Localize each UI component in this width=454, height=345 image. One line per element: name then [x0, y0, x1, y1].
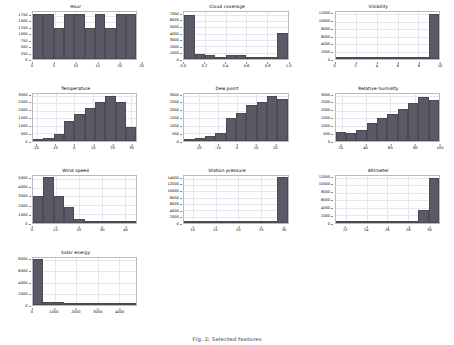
subplot-wind-speed: Wind speed010002000300040005000010203040: [0, 164, 151, 246]
histogram-bar: [64, 121, 74, 141]
histogram-bar: [226, 55, 236, 59]
y-axis-ticks: 020004000600080001000012000: [303, 175, 334, 224]
histogram-bar: [267, 96, 277, 141]
histogram-bar: [257, 102, 267, 141]
histogram-bar: [43, 302, 53, 305]
subplot-visibility: Visibility020004000600080001000012000024…: [303, 0, 454, 82]
histogram-bar: [74, 114, 84, 141]
histogram-bar: [85, 108, 95, 141]
subplot-solar-energy: Solar energy0200040006000800001000200030…: [0, 246, 151, 328]
y-axis-ticks: 01000200030004000500060007000: [151, 11, 182, 60]
x-tick-label: 2000: [71, 310, 80, 314]
histogram-bars: [184, 12, 287, 59]
plot-area: [183, 11, 288, 60]
y-axis-ticks: 020004000600080001000012000: [303, 11, 334, 60]
figure-subplot-grid: Hour025050075010001250150017500510152025…: [0, 0, 454, 330]
histogram-bar: [95, 221, 105, 223]
plot-panel: Temperature050010001500200025003000-20-1…: [0, 82, 151, 164]
histogram-bar: [367, 221, 377, 223]
histogram-bar: [336, 57, 346, 59]
plot-title: Altimeter: [303, 168, 454, 174]
x-tick-label: 0.6: [244, 64, 250, 68]
x-tick-label: 10: [91, 146, 96, 150]
y-tick-label: 0: [177, 222, 179, 226]
histogram-bar: [116, 14, 126, 59]
x-tick-label: 10: [254, 146, 259, 150]
x-tick-label: 100: [437, 146, 444, 150]
x-tick-label: 20: [110, 146, 115, 150]
x-tick-label: 15: [213, 228, 218, 232]
y-tick-label: 1500: [170, 116, 179, 120]
histogram-bar: [64, 207, 74, 223]
y-tick-label: 8000: [321, 190, 330, 194]
plot-panel: Altimeter0200040006000800010000120002224…: [303, 164, 454, 246]
x-tick-label: 60: [388, 146, 393, 150]
histogram-bar: [356, 130, 366, 141]
histogram-bar: [43, 138, 53, 141]
y-tick-label: 750: [21, 39, 28, 43]
histogram-bar: [74, 14, 84, 59]
x-tick-label: 0: [31, 64, 33, 68]
plot-area: [183, 175, 288, 224]
y-axis-ticks: 050010001500200025003000: [151, 93, 182, 142]
x-tick-label: 1.0: [286, 64, 292, 68]
histogram-bars: [33, 12, 136, 59]
histogram-bar: [184, 221, 194, 223]
histogram-bar: [95, 303, 105, 305]
histogram-bar: [95, 102, 105, 141]
x-axis-ticks: 20406080100: [335, 144, 440, 154]
histogram-bar: [116, 102, 126, 141]
histogram-bar: [184, 139, 194, 141]
y-tick-label: 8000: [170, 196, 179, 200]
x-tick-label: 0.2: [202, 64, 208, 68]
y-tick-label: 4000: [321, 42, 330, 46]
histogram-bar: [74, 303, 84, 305]
y-tick-label: 12000: [319, 11, 330, 15]
histogram-bar: [387, 221, 397, 223]
plot-area: [32, 175, 137, 224]
x-tick-label: 0.0: [180, 64, 186, 68]
histogram-bar: [105, 28, 115, 59]
histogram-bar: [215, 221, 225, 223]
plot-panel: Cloud coverage01000200030004000500060007…: [151, 0, 302, 82]
y-tick-label: 10000: [319, 182, 330, 186]
y-tick-label: 12000: [319, 175, 330, 179]
histogram-bar: [418, 97, 428, 141]
y-tick-label: 2000: [170, 108, 179, 112]
histogram-bars: [33, 176, 136, 223]
x-tick-label: 0: [236, 146, 238, 150]
y-tick-label: 3000: [170, 38, 179, 42]
plot-title: Hour: [0, 4, 151, 10]
histogram-bar: [408, 103, 418, 141]
y-tick-label: 2500: [18, 100, 27, 104]
plot-title: Relative humidity: [303, 86, 454, 92]
y-tick-label: 1500: [18, 19, 27, 23]
x-tick-label: 20: [117, 64, 122, 68]
x-tick-label: 25: [259, 228, 264, 232]
y-tick-label: 0: [328, 222, 330, 226]
y-tick-label: 0: [25, 222, 27, 226]
histogram-bar: [346, 133, 356, 141]
plot-panel: Relative humidity05001000150020002500300…: [303, 82, 454, 164]
y-tick-label: 1000: [170, 51, 179, 55]
y-tick-label: 6000: [170, 202, 179, 206]
y-tick-label: 1500: [18, 116, 27, 120]
histogram-bar: [236, 221, 246, 223]
plot-title: Solar energy: [0, 250, 151, 256]
x-axis-ticks: 01000200030004000: [32, 308, 137, 318]
x-tick-label: 10: [74, 64, 79, 68]
y-axis-ticks: 050010001500200025003000: [303, 93, 334, 142]
figure-caption: Fig. 2: Selected features: [0, 336, 454, 343]
histogram-bar: [408, 221, 418, 223]
histogram-bar: [33, 196, 43, 223]
y-tick-label: 2000: [18, 204, 27, 208]
histogram-bar: [95, 14, 105, 59]
x-tick-label: -20: [196, 146, 202, 150]
y-axis-ticks: 010002000300040005000: [0, 175, 31, 224]
subplot-dew-point: Dew point050010001500200025003000-20-100…: [151, 82, 302, 164]
y-tick-label: 10000: [319, 19, 330, 23]
plot-area: [32, 257, 137, 306]
y-axis-ticks: 02505007501000125015001750: [0, 11, 31, 60]
x-tick-label: 25: [139, 64, 144, 68]
histogram-bar: [246, 57, 256, 59]
